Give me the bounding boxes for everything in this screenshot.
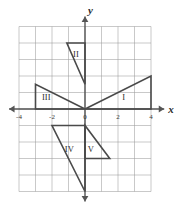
x-tick-label: 0 (83, 113, 87, 121)
axis-arrowhead (82, 17, 89, 22)
x-tick-label: 2 (116, 113, 120, 121)
x-tick-label: 4 (149, 113, 153, 121)
axis-arrowhead (82, 196, 89, 201)
coordinate-plane-svg: xy-4-2024IIIIIIIVV (0, 0, 189, 218)
triangle-label-V: V (88, 144, 95, 154)
triangle-label-III: III (42, 92, 51, 102)
x-axis-label: x (167, 103, 174, 115)
axis-arrowhead (9, 106, 14, 113)
axis-arrowhead (159, 106, 164, 113)
triangle-label-II: II (73, 49, 79, 59)
y-axis-label: y (86, 4, 93, 16)
x-tick-label: -4 (16, 113, 22, 121)
figure-canvas: xy-4-2024IIIIIIIVV (0, 0, 189, 218)
triangle-label-IV: IV (65, 144, 75, 154)
triangle-label-I: I (122, 92, 125, 102)
x-tick-label: -2 (49, 113, 55, 121)
